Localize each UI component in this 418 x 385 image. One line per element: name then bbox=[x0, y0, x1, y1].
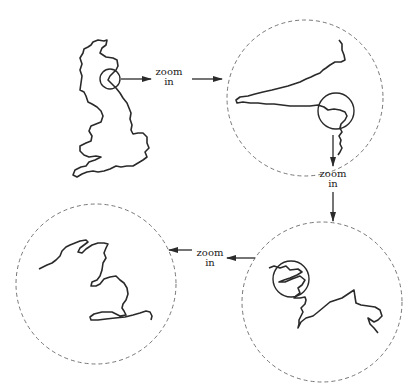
edge-label-1-line2: in bbox=[149, 77, 189, 87]
zoom-level-2-coastline bbox=[269, 266, 382, 333]
edge-label-2: zoom in bbox=[313, 169, 353, 189]
uk-focus-circle bbox=[100, 69, 120, 89]
zoom-level-3 bbox=[16, 204, 176, 364]
zoom-level-1-coastline bbox=[236, 40, 347, 155]
edge-label-1: zoom in bbox=[149, 67, 189, 87]
zoom-level-2-boundary bbox=[242, 222, 402, 382]
zoom-level-1 bbox=[227, 20, 383, 176]
zoom-diagram bbox=[0, 0, 418, 385]
zoom-level-3-boundary bbox=[16, 204, 176, 364]
uk-map bbox=[73, 40, 149, 177]
zoom-level-3-coastline bbox=[39, 240, 152, 320]
zoom-level-1-focus-circle bbox=[318, 93, 354, 129]
edge-label-3-line2: in bbox=[190, 258, 230, 268]
zoom-level-1-boundary bbox=[227, 20, 383, 176]
edge-label-2-line2: in bbox=[313, 179, 353, 189]
edge-label-3: zoom in bbox=[190, 248, 230, 268]
zoom-level-2 bbox=[242, 222, 402, 382]
